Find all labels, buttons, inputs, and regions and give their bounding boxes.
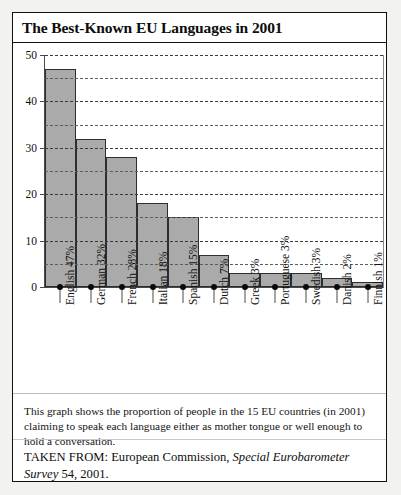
gridline-major bbox=[45, 194, 383, 195]
gridline-minor bbox=[45, 171, 383, 172]
gridline-major bbox=[45, 55, 383, 56]
x-axis-tick-label-text: French 28% bbox=[126, 249, 138, 305]
gridline-major bbox=[45, 101, 383, 102]
bar-base-marker bbox=[242, 284, 248, 290]
y-axis-tick bbox=[40, 101, 45, 102]
bar-base-marker bbox=[272, 284, 278, 290]
x-axis-tick-label-text: German 32% bbox=[95, 244, 107, 305]
y-axis-tick-label: 0 bbox=[31, 281, 37, 293]
y-axis-tick bbox=[40, 194, 45, 195]
gridline-minor bbox=[45, 125, 383, 126]
x-axis-tick-label-text: English 47% bbox=[64, 246, 76, 305]
gridline-minor bbox=[45, 217, 383, 218]
source-suffix: 54, 2001. bbox=[61, 467, 108, 481]
source-prefix: TAKEN FROM: European Commission, bbox=[24, 450, 229, 464]
bar-base-marker bbox=[57, 284, 63, 290]
x-axis-tick-label-text: Dutch 7% bbox=[218, 259, 230, 305]
bar-base-marker bbox=[180, 284, 186, 290]
x-axis-tick-label-text: Danish 2% bbox=[341, 254, 353, 305]
x-axis-tick-label-text: Spanish 15% bbox=[187, 245, 199, 305]
gridline-major bbox=[45, 148, 383, 149]
y-axis-tick-label: 10 bbox=[26, 235, 38, 247]
bar-base-marker bbox=[150, 284, 156, 290]
y-axis-tick-label: 30 bbox=[26, 142, 38, 154]
y-axis-tick-label: 20 bbox=[26, 188, 38, 200]
bar-base-marker bbox=[303, 284, 309, 290]
x-axis-tick-label-text: Portuguese 3% bbox=[279, 236, 291, 305]
y-axis-tick bbox=[40, 241, 45, 242]
x-axis-tick-label-text: Italian 18% bbox=[157, 252, 169, 305]
y-axis-tick bbox=[40, 55, 45, 56]
bar-chart-plot: 01020304050English 47%German 32%French 2… bbox=[44, 55, 384, 288]
chart-area: 01020304050English 47%German 32%French 2… bbox=[13, 43, 386, 393]
bar-base-marker bbox=[211, 284, 217, 290]
y-axis-tick-label: 50 bbox=[26, 49, 38, 61]
y-axis-tick-label: 40 bbox=[26, 95, 38, 107]
x-axis-tick-label-text: Finnish 1% bbox=[372, 252, 384, 305]
gridline-major bbox=[45, 241, 383, 242]
y-axis-tick bbox=[40, 148, 45, 149]
figure-source: TAKEN FROM: European Commission, Special… bbox=[13, 439, 386, 483]
x-axis-tick-label-text: Greek 3% bbox=[249, 259, 261, 305]
bar-base-marker bbox=[365, 284, 371, 290]
figure-title-bar: The Best-Known EU Languages in 2001 bbox=[13, 13, 386, 43]
bar-base-marker bbox=[88, 284, 94, 290]
source-text: TAKEN FROM: European Commission, Special… bbox=[24, 449, 375, 483]
gridline-minor bbox=[45, 78, 383, 79]
figure-card: The Best-Known EU Languages in 2001 0102… bbox=[12, 12, 387, 482]
bar-base-marker bbox=[334, 284, 340, 290]
page-title: The Best-Known EU Languages in 2001 bbox=[22, 19, 282, 37]
x-axis-tick-label-text: Swedish 3% bbox=[310, 248, 322, 305]
y-axis-tick bbox=[40, 287, 45, 288]
bar-base-marker bbox=[119, 284, 125, 290]
